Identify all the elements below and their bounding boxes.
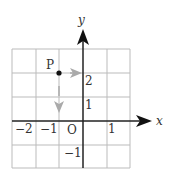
- arrow-right-icon: [70, 68, 82, 78]
- point-p-label: P: [46, 58, 54, 72]
- coordinate-plane: x y O −2 −1 1 2 1 −1 P: [0, 0, 171, 177]
- y-tick-label: −1: [64, 146, 82, 160]
- x-tick-label: −2: [15, 122, 33, 136]
- y-axis-label: y: [77, 13, 85, 27]
- y-tick-label: 1: [85, 98, 93, 112]
- x-tick-label: 1: [108, 122, 116, 136]
- y-tick-label: 2: [85, 74, 93, 88]
- origin-label: O: [67, 123, 77, 137]
- point-p: [56, 70, 61, 75]
- x-axis: [12, 115, 152, 127]
- x-tick-label: −1: [40, 122, 58, 136]
- x-axis-label: x: [156, 114, 163, 128]
